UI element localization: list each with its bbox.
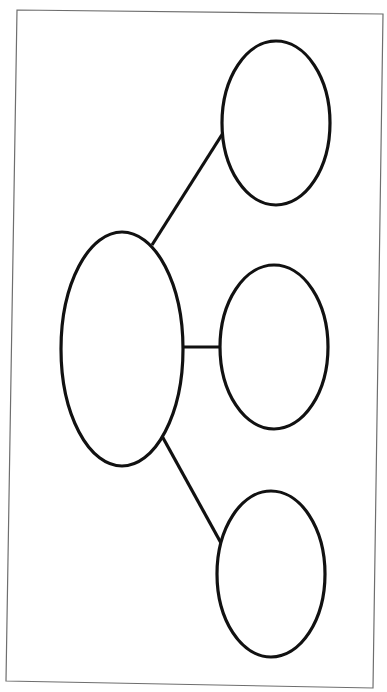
branch-oval-bottom xyxy=(217,491,325,657)
main-oval xyxy=(61,232,183,466)
branch-oval-top xyxy=(222,41,330,205)
branch-oval-middle xyxy=(220,265,328,429)
web-diagram xyxy=(0,0,387,692)
